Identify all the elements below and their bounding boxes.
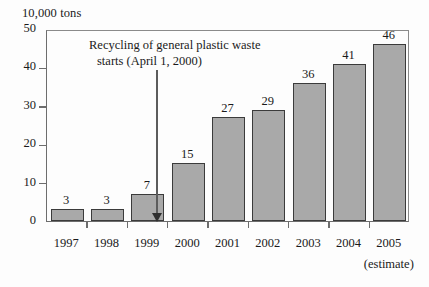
annotation-line-1: Recycling of general plastic waste: [89, 38, 260, 52]
bar-1997: [51, 209, 84, 221]
y-axis-tick-mark: [39, 183, 46, 184]
bar-1998: [91, 209, 124, 221]
bar-value-label-1998: 3: [87, 193, 127, 208]
bar-2000: [172, 163, 205, 221]
x-axis-estimate-note: (estimate): [357, 257, 421, 272]
y-axis-tick-label: 20: [24, 136, 37, 151]
y-axis-tick-mark: [39, 145, 46, 146]
x-axis-tick-mark: [167, 222, 168, 228]
y-axis-tick-label: 10: [24, 175, 37, 190]
bar-2003: [293, 83, 326, 221]
y-axis-tick-mark: [39, 106, 46, 107]
x-axis-tick-mark: [248, 222, 249, 228]
y-axis-tick-mark: [39, 68, 46, 69]
bar-value-label-2000: 15: [167, 147, 207, 162]
y-axis-tick-label: 50: [24, 21, 37, 36]
x-axis-tick-mark: [86, 222, 87, 228]
bar-value-label-2003: 36: [288, 67, 328, 82]
x-axis-tick-mark: [288, 222, 289, 228]
bar-value-label-1999: 7: [127, 178, 167, 193]
annotation-arrow-icon: [152, 213, 162, 222]
bar-value-label-2001: 27: [208, 101, 248, 116]
y-axis-tick-label: 0: [30, 213, 36, 228]
annotation-callout: Recycling of general plastic waste start…: [89, 38, 260, 69]
bar-value-label-2002: 29: [248, 94, 288, 109]
x-axis-tick-mark: [127, 222, 128, 228]
y-axis-tick-label: 30: [24, 98, 37, 113]
bar-2004: [333, 64, 366, 221]
annotation-line-2: starts (April 1, 2000): [97, 54, 260, 70]
x-axis-tick-mark: [207, 222, 208, 228]
bar-value-label-1997: 3: [46, 193, 86, 208]
y-axis-unit-label: 10,000 tons: [22, 6, 81, 21]
x-axis-tick-mark: [369, 222, 370, 228]
x-axis-tick-label-2005: 2005: [364, 236, 414, 251]
bar-2002: [252, 110, 285, 221]
bar-value-label-2005: 46: [369, 28, 409, 43]
chart-page: { "chart_data": { "type": "bar", "title"…: [0, 0, 429, 287]
bar-value-label-2004: 41: [329, 48, 369, 63]
bar-2001: [212, 117, 245, 221]
x-axis-tick-mark: [328, 222, 329, 228]
y-axis-tick-label: 40: [24, 59, 37, 74]
annotation-pointer-line: [156, 70, 158, 216]
bar-2005: [373, 44, 406, 221]
